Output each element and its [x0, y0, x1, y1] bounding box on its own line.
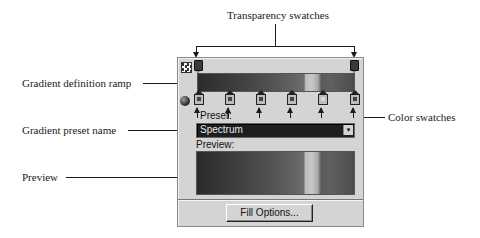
color-swatch-5[interactable] [318, 94, 328, 105]
callout-gradient-preset-name: Gradient preset name [22, 124, 116, 136]
preset-label: Preset: [200, 110, 232, 121]
fill-options-button[interactable]: Fill Options... [226, 204, 313, 222]
gradient-definition-ramp[interactable] [197, 73, 355, 92]
callout-line [275, 24, 276, 46]
color-swatch-2[interactable] [225, 94, 235, 105]
arrow-up-icon [318, 107, 324, 113]
arrow-up-icon [256, 107, 262, 113]
color-swatch-1[interactable] [194, 94, 204, 105]
gradient-fill-panel: Preset: Spectrum ▼ Preview: Fill Options… [177, 57, 364, 227]
callout-preview: Preview [22, 171, 58, 183]
arrow-up-icon [350, 107, 356, 113]
transparency-swatch-end[interactable] [350, 60, 359, 71]
callout-transparency-swatches: Transparency swatches [227, 9, 329, 21]
checkerboard-icon[interactable] [181, 62, 192, 73]
preview-label: Preview: [196, 139, 234, 150]
sphere-icon[interactable] [180, 96, 190, 106]
gradient-preset-dropdown[interactable]: Spectrum ▼ [196, 123, 355, 138]
color-swatch-4[interactable] [287, 94, 297, 105]
transparency-swatch-start[interactable] [194, 60, 203, 71]
callout-color-swatches: Color swatches [388, 111, 456, 123]
preset-value: Spectrum [200, 124, 243, 135]
divider [178, 199, 363, 201]
gradient-preview [196, 151, 355, 195]
color-swatch-6[interactable] [350, 94, 360, 105]
color-swatch-3[interactable] [256, 94, 266, 105]
callout-line [66, 177, 189, 178]
callout-line [196, 46, 355, 47]
arrow-up-icon [287, 107, 293, 113]
callout-gradient-definition-ramp: Gradient definition ramp [22, 77, 131, 89]
chevron-down-icon[interactable]: ▼ [343, 125, 353, 135]
